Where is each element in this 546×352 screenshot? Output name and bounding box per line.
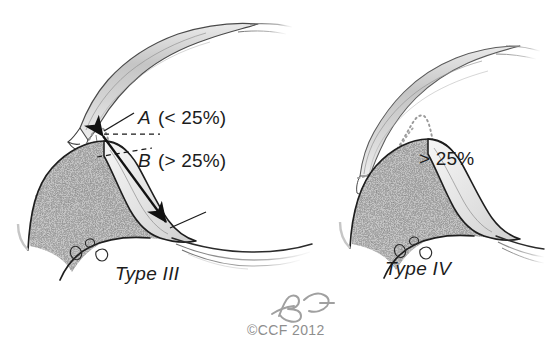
type-iv-title: Type IV [385, 258, 451, 280]
measure-b-range: (> 25%) [158, 150, 226, 171]
measure-a-range: (< 25%) [158, 107, 226, 128]
tendon-tail-left [172, 238, 312, 269]
anatomical-illustration [0, 0, 546, 352]
measure-a-variable: A [138, 107, 158, 128]
type-iii-title: Type III [115, 263, 179, 285]
measure-b-pointer [170, 212, 206, 228]
measure-b-variable: B [138, 150, 158, 171]
illustration-canvas: A(< 25%) B(> 25%) > 25% Type III Type IV… [0, 0, 546, 352]
measure-b-label: B(> 25%) [138, 150, 226, 172]
artist-signature-mark [272, 294, 334, 322]
type-iv-percent-label: > 25% [419, 148, 474, 170]
copyright-notice: ©CCF 2012 [247, 322, 325, 338]
measure-a-label: A(< 25%) [138, 107, 226, 129]
measure-a-leader [104, 113, 134, 131]
retracted-tendon-left [68, 23, 292, 155]
